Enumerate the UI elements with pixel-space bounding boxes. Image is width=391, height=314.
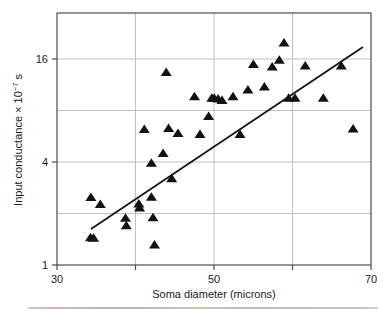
data-point [274,55,285,64]
gridlines [57,13,371,265]
data-point [300,61,311,70]
y-axis-title-unit: s [12,74,24,83]
data-point [95,200,106,209]
xtick-label-50: 50 [208,273,220,285]
data-point [203,112,214,121]
data-points [85,38,359,249]
xtick-label-30: 30 [51,273,63,285]
data-point [163,123,174,131]
x-axis-title: Soma diameter (microns) [152,288,275,300]
scan-artifact-strip [28,307,378,309]
data-point [195,130,206,139]
y-axis-title: Input conductance × 10−7 s [11,74,24,206]
data-point [228,92,239,101]
data-point [121,221,132,230]
y-axis-title-times: × 10 [12,91,24,113]
plot-canvas: 30 50 70 1 4 16 Soma diameter (microns) … [0,0,391,314]
tick-marks [52,59,371,270]
y-axis-title-main: Input conductance [12,113,24,206]
data-point [161,68,172,77]
xtick-label-70: 70 [365,273,377,285]
scatter-plot-figure: 30 50 70 1 4 16 Soma diameter (microns) … [0,0,391,314]
data-point [120,213,131,222]
svg-text:Input conductance × 10−7 s: Input conductance × 10−7 s [11,74,24,206]
data-point [149,240,160,249]
data-point [248,60,259,69]
data-point [189,92,200,101]
data-point [259,82,270,91]
data-point [146,192,157,201]
ytick-label-16: 16 [36,53,48,65]
data-point [242,85,253,94]
regression-line [91,47,363,229]
ytick-label-4: 4 [42,156,48,168]
y-axis-title-exponent: −7 [11,83,20,92]
data-point [318,93,329,102]
ytick-label-1: 1 [42,259,48,271]
data-point [148,213,159,222]
data-point [279,38,290,47]
data-point [336,61,347,70]
data-point [158,149,169,158]
data-point [173,128,184,137]
data-point [348,124,359,133]
data-point [85,192,96,201]
data-point [235,130,246,139]
data-point [139,124,150,132]
